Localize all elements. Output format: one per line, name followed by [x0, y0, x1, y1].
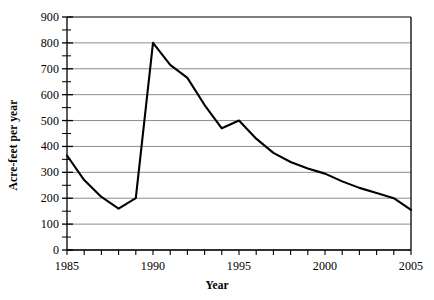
y-axis-tick-label: 600: [25, 87, 59, 102]
x-axis-tick-label: 1990: [128, 259, 178, 274]
y-axis-tick-label: 400: [25, 139, 59, 154]
y-axis-tick-label: 200: [25, 191, 59, 206]
data-series-line: [67, 43, 411, 210]
line-chart: Acre-feet per year 010020030040050060070…: [0, 0, 434, 300]
y-axis-tick-label: 900: [25, 10, 59, 25]
y-axis-tick-label: 100: [25, 217, 59, 232]
y-axis-tick-label: 300: [25, 165, 59, 180]
plot-area: [0, 0, 434, 300]
x-axis-title: Year: [0, 279, 434, 291]
x-axis-tick-label: 1995: [214, 259, 264, 274]
x-axis-tick-label: 2000: [300, 259, 350, 274]
y-axis-tick-label: 700: [25, 61, 59, 76]
x-axis-tick-label: 1985: [42, 259, 92, 274]
y-axis-tick-label: 500: [25, 113, 59, 128]
x-axis-tick-label: 2005: [386, 259, 434, 274]
y-axis-tick-label: 800: [25, 35, 59, 50]
y-axis-tick-label: 0: [25, 243, 59, 258]
